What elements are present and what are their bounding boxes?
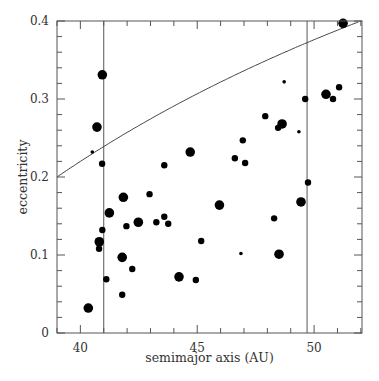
data-points [84, 19, 348, 313]
data-point [99, 161, 105, 167]
data-point [338, 19, 348, 29]
y-tick-label: 0.4 [30, 14, 49, 28]
data-point [302, 96, 308, 102]
data-point [92, 122, 102, 132]
data-point [297, 130, 301, 134]
tick-labels: 40455000.10.20.30.4 [30, 14, 322, 355]
data-point [165, 221, 171, 227]
data-point [99, 227, 105, 233]
data-point [240, 137, 246, 143]
data-point [161, 162, 167, 168]
data-point [103, 276, 109, 282]
y-tick-label: 0.1 [30, 248, 49, 262]
data-point [96, 246, 102, 252]
data-point [84, 303, 94, 313]
data-point [239, 252, 243, 256]
data-point [242, 160, 248, 166]
x-tick-label: 40 [73, 341, 88, 355]
data-point [90, 150, 94, 154]
data-point [161, 214, 167, 220]
data-point [98, 70, 108, 80]
perihelion-curve [57, 22, 359, 177]
y-axis-label: eccentricity [15, 139, 30, 215]
plot-frame [57, 21, 362, 333]
data-point [282, 80, 286, 84]
x-axis-label: semimajor axis (AU) [145, 350, 274, 365]
scatter-chart: 40455000.10.20.30.4 semimajor axis (AU) … [0, 0, 379, 381]
data-point [146, 191, 152, 197]
data-point [117, 253, 127, 263]
data-point [330, 96, 336, 102]
data-point [277, 119, 287, 129]
data-point [215, 200, 225, 210]
data-point [262, 113, 268, 119]
data-point [119, 192, 129, 202]
data-point [174, 272, 184, 282]
data-point [296, 197, 306, 207]
data-point [123, 223, 129, 229]
data-point [193, 277, 199, 283]
data-point [274, 249, 284, 259]
data-point [153, 219, 159, 225]
data-point [198, 238, 204, 244]
data-point [336, 84, 342, 90]
data-point [134, 217, 144, 227]
data-point [321, 90, 331, 100]
data-point [105, 208, 115, 218]
y-tick-label: 0.3 [30, 92, 49, 106]
resonance-lines [104, 21, 307, 333]
data-point [185, 147, 195, 157]
data-point [119, 292, 125, 298]
data-point [271, 215, 277, 221]
y-tick-label: 0.2 [30, 170, 49, 184]
data-point [95, 237, 105, 247]
data-point [232, 155, 238, 161]
data-point [305, 179, 311, 185]
y-tick-label: 0 [41, 326, 49, 340]
x-tick-label: 50 [306, 341, 321, 355]
axis-ticks [57, 21, 362, 333]
data-point [129, 266, 135, 272]
